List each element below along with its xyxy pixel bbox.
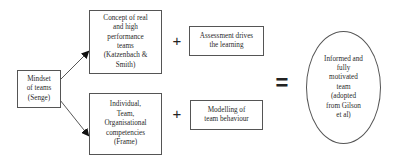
assessment-drives-learning-box: Assessment drives the learning bbox=[189, 26, 264, 56]
modelling-team-behaviour-label: Modelling of team behaviour bbox=[204, 106, 249, 125]
result-ellipse: Informed and fully motivated team (adopt… bbox=[306, 31, 381, 144]
equals-operator: = bbox=[274, 72, 290, 94]
plus-operator-bottom: + bbox=[170, 106, 184, 121]
concept-of-teams-label: Concept of real and high performance tea… bbox=[103, 14, 147, 70]
plus-operator-top: + bbox=[170, 33, 184, 48]
competencies-box: Individual, Team, Organisational compete… bbox=[89, 93, 162, 155]
competencies-label: Individual, Team, Organisational compete… bbox=[104, 100, 146, 147]
arrow-to-competencies-box bbox=[60, 100, 88, 135]
mindset-of-teams-label: Mindset of teams (Senge) bbox=[27, 75, 52, 103]
modelling-team-behaviour-box: Modelling of team behaviour bbox=[190, 100, 263, 130]
concept-of-teams-box: Concept of real and high performance tea… bbox=[89, 10, 162, 74]
mindset-of-teams-box: Mindset of teams (Senge) bbox=[17, 70, 61, 108]
arrow-to-concept-box bbox=[60, 52, 88, 80]
result-ellipse-label: Informed and fully motivated team (adopt… bbox=[324, 55, 363, 121]
assessment-drives-learning-label: Assessment drives the learning bbox=[200, 32, 253, 51]
